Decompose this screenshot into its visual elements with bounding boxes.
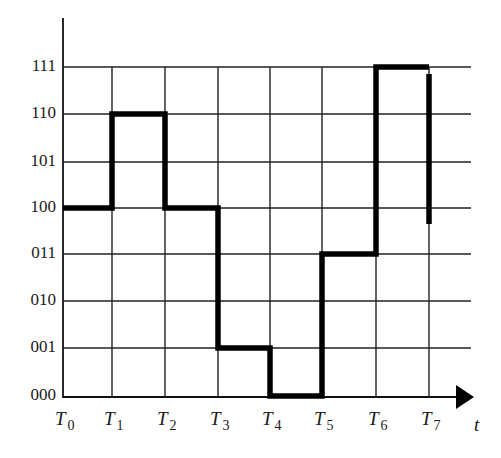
x-tick-label: T6 bbox=[368, 408, 388, 434]
y-tick-label: 010 bbox=[4, 291, 56, 308]
step-waveform-chart bbox=[0, 0, 501, 458]
y-tick-label: 001 bbox=[4, 338, 56, 355]
x-tick-label: T2 bbox=[157, 408, 177, 434]
y-tick-label: 110 bbox=[4, 104, 56, 121]
x-axis-arrow-icon bbox=[456, 385, 474, 409]
x-tick-label: T5 bbox=[314, 408, 334, 434]
x-tick-label: T4 bbox=[262, 408, 282, 434]
x-tick-label: T7 bbox=[421, 408, 441, 434]
x-tick-label: T0 bbox=[55, 408, 75, 434]
y-tick-label: 100 bbox=[4, 198, 56, 215]
x-tick-label: T1 bbox=[104, 408, 124, 434]
y-tick-label: 000 bbox=[4, 386, 56, 403]
y-tick-label: 011 bbox=[4, 244, 56, 261]
x-tick-label: T3 bbox=[210, 408, 230, 434]
y-tick-label: 101 bbox=[4, 152, 56, 169]
y-tick-label: 111 bbox=[4, 57, 56, 74]
waveform-line bbox=[63, 67, 429, 396]
x-axis-title: t bbox=[474, 414, 479, 436]
